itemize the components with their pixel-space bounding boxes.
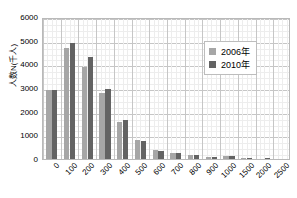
bar-2006年-1500 [241, 158, 246, 159]
bar-2006年-200 [82, 67, 87, 159]
bar-group [132, 19, 150, 159]
plot-area [42, 18, 290, 160]
legend-swatch-icon-2006 [209, 48, 216, 55]
bar-group [238, 19, 256, 159]
bar-2006年-1000 [223, 156, 228, 159]
bar-2006年-900 [206, 157, 211, 159]
bar-2010年-900 [212, 157, 217, 159]
bar-2006年-400 [117, 122, 122, 159]
bar-2006年-700 [170, 153, 175, 159]
x-axis-tick-label: 100 [63, 161, 79, 177]
legend: 2006年 2010年 [204, 41, 257, 75]
legend-item-2010: 2010年 [209, 58, 250, 71]
x-axis-tick-label: 2500 [273, 161, 292, 180]
bar-2010年-100 [70, 43, 75, 159]
y-axis-tick-labels: 0100020003000400050006000 [12, 14, 38, 162]
legend-label-2006: 2006年 [221, 47, 250, 57]
y-axis-tick-label: 4000 [20, 61, 38, 69]
bar-2006年-800 [188, 155, 193, 159]
bar-group [167, 19, 185, 159]
x-axis-tick-label: 0 [52, 161, 62, 171]
bar-2010年-300 [105, 89, 110, 159]
bar-group [185, 19, 203, 159]
bar-2006年-500 [135, 140, 140, 159]
x-axis-tick-label: 700 [169, 161, 185, 177]
bar-group [43, 19, 61, 159]
x-axis-tick-label: 900 [205, 161, 221, 177]
x-axis-tick-labels: 0100200300400500600700800900100015002000… [42, 161, 290, 197]
legend-swatch-icon-2010 [209, 61, 216, 68]
y-axis-tick-label: 2000 [20, 109, 38, 117]
bar-2006年-100 [64, 48, 69, 159]
y-axis-tick-label: 1000 [20, 132, 38, 140]
bar-group [61, 19, 79, 159]
x-axis-tick-label: 1000 [219, 161, 238, 180]
bar-chart: 人数N(千人) 0100020003000400050006000 2006年 … [0, 0, 297, 198]
x-axis-tick-label: 2000 [255, 161, 274, 180]
x-axis-tick-label: 400 [116, 161, 132, 177]
bar-2006年-600 [153, 150, 158, 159]
bar-2006年-2000 [259, 159, 264, 160]
bar-2010年-1000 [229, 156, 234, 159]
bar-2010年-0 [52, 90, 57, 159]
x-axis-tick-label: 800 [187, 161, 203, 177]
bar-2010年-500 [141, 141, 146, 159]
bar-group [114, 19, 132, 159]
bar-2010年-2500 [282, 159, 287, 160]
bar-2010年-800 [194, 155, 199, 159]
bar-group [256, 19, 274, 159]
legend-label-2010: 2010年 [221, 60, 250, 70]
bar-group [220, 19, 238, 159]
bar-group [149, 19, 167, 159]
bar-2006年-2500 [277, 159, 282, 160]
bar-group [78, 19, 96, 159]
bar-group [273, 19, 290, 159]
bar-2010年-700 [176, 153, 181, 159]
bars-container [43, 19, 289, 159]
legend-item-2006: 2006年 [209, 45, 250, 58]
bar-2010年-200 [88, 57, 93, 159]
x-axis-tick-label: 500 [134, 161, 150, 177]
bar-2006年-0 [46, 90, 51, 159]
bar-group [202, 19, 220, 159]
y-axis-tick-label: 0 [34, 156, 38, 164]
bar-group [96, 19, 114, 159]
x-axis-tick-label: 1500 [237, 161, 256, 180]
x-axis-tick-label: 200 [81, 161, 97, 177]
bar-2010年-400 [123, 120, 128, 159]
y-axis-tick-label: 3000 [20, 85, 38, 93]
bar-2006年-300 [99, 93, 104, 159]
y-axis-tick-label: 6000 [20, 14, 38, 22]
bar-2010年-2000 [265, 158, 270, 159]
bar-2010年-1500 [247, 158, 252, 159]
y-axis-tick-label: 5000 [20, 38, 38, 46]
x-axis-tick-label: 600 [152, 161, 168, 177]
x-axis-tick-label: 300 [99, 161, 115, 177]
bar-2010年-600 [158, 151, 163, 159]
